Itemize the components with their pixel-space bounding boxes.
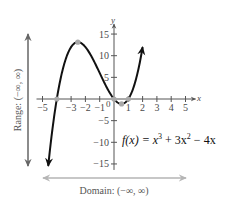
x-axis-label: x [196,93,201,103]
x-tick-label: −2 [80,102,91,113]
fn-lhs: f(x) = x [122,133,159,147]
x-tick-label: 2 [140,102,145,113]
origin-label: 0 [106,99,111,109]
point-marker [75,40,80,45]
y-axis-label: y [110,15,115,25]
function-label: f(x) = x3 + 3x2 − 4x [122,132,216,147]
function-graph: −5−3−2−11234515105−5−10−15 y x 0 f(x) = … [0,0,238,203]
point-marker [54,96,59,101]
point-marker [119,101,124,106]
range-label: Range: (−∞, ∞) [12,69,24,131]
fn-mid: + 3x [162,133,187,147]
y-tick-label: −10 [93,137,109,148]
point-marker [126,96,131,101]
x-tick-label: −3 [66,102,77,113]
point-marker [111,96,116,101]
y-tick-label: 15 [99,29,109,40]
marked-points [54,40,131,107]
x-tick-label: −1 [94,102,105,113]
fn-rhs: − 4x [191,133,216,147]
x-tick-label: −5 [37,102,48,113]
y-tick-label: 5 [104,72,109,83]
y-tick-label: 10 [99,50,109,61]
x-tick-label: 5 [183,102,188,113]
y-tick-label: −5 [98,115,109,126]
domain-label: Domain: (−∞, ∞) [79,185,148,197]
x-tick-label: 1 [126,102,131,113]
x-tick-label: 4 [169,102,174,113]
x-tick-label: 3 [154,102,159,113]
y-tick-label: −15 [93,158,109,169]
